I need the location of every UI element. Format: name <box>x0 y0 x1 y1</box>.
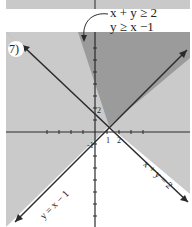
tick-label-yneg1: -1 <box>87 139 94 152</box>
tick-label-x1: 1 <box>106 134 110 147</box>
tick-label-x2: 2 <box>117 134 121 147</box>
inequality-1: x + y ≥ 2 <box>110 6 157 19</box>
problem-number: 7) <box>9 43 19 56</box>
inequality-2: y ≥ x −1 <box>110 20 154 33</box>
tick-label-y2: 2 <box>97 104 101 117</box>
inequality-graph <box>0 0 192 227</box>
